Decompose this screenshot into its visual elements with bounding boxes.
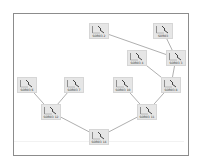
node-n7[interactable]: SOR03 10: [113, 77, 133, 93]
node-n11[interactable]: SOR03 14: [89, 129, 109, 145]
network-device-icon: [91, 25, 108, 34]
network-device-icon: [91, 131, 108, 140]
node-label: SOR03 8: [162, 88, 180, 92]
network-device-icon: [66, 79, 83, 88]
node-n9[interactable]: SOR03 12: [41, 104, 61, 120]
node-n5[interactable]: SOR03 6: [17, 77, 37, 93]
node-label: SOR03 3: [167, 61, 185, 65]
node-label: SOR03 2: [90, 34, 108, 38]
network-device-icon: [129, 52, 146, 61]
node-label: SOR03 6: [18, 88, 36, 92]
node-label: SOR03 11: [138, 115, 156, 119]
node-label: SOR03 14: [90, 140, 108, 144]
node-n3[interactable]: SOR03 4: [127, 50, 147, 66]
node-label: SOR03: [154, 34, 172, 38]
node-label: SOR03 10: [114, 88, 132, 92]
node-label: SOR03 7: [65, 88, 83, 92]
network-device-icon: [43, 106, 60, 115]
network-device-icon: [115, 79, 132, 88]
network-device-icon: [163, 79, 180, 88]
node-label: SOR03 4: [128, 61, 146, 65]
node-n6[interactable]: SOR03 7: [64, 77, 84, 93]
node-label: SOR03 12: [42, 115, 60, 119]
network-device-icon: [19, 79, 36, 88]
network-device-icon: [155, 25, 172, 34]
network-device-icon: [139, 106, 156, 115]
node-n4[interactable]: SOR03 3: [166, 50, 186, 66]
node-n8[interactable]: SOR03 8: [161, 77, 181, 93]
network-device-icon: [168, 52, 185, 61]
node-n10[interactable]: SOR03 11: [137, 104, 157, 120]
node-n1[interactable]: SOR03 2: [89, 23, 109, 39]
node-n2[interactable]: SOR03: [153, 23, 173, 39]
